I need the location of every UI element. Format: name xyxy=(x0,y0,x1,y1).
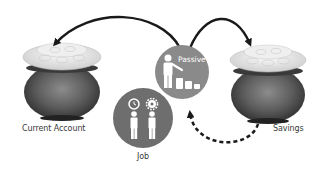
current-account-pot-icon xyxy=(23,43,101,121)
current-account-label: Current Account xyxy=(22,124,85,133)
gear-icon xyxy=(147,99,158,110)
passive-label: Passive xyxy=(178,55,206,64)
job-label: Job xyxy=(137,152,149,161)
arrow-passive-to-current-account xyxy=(55,17,180,48)
passive-income-icon xyxy=(155,45,209,99)
savings-pot-icon xyxy=(230,45,306,124)
job-income-icon xyxy=(113,88,173,148)
arrow-passive-to-savings xyxy=(190,19,250,48)
money-flow-diagram: Passive Current Account Savings Job xyxy=(0,0,323,171)
savings-label: Savings xyxy=(273,124,304,133)
